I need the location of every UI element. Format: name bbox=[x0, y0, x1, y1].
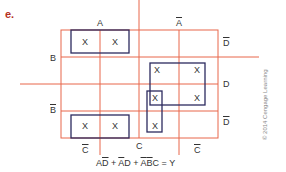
label-A-bar: A bbox=[176, 19, 182, 28]
cell-r1-c2: X bbox=[147, 66, 167, 75]
label-B-bar: B bbox=[50, 106, 56, 115]
cell-r1-c3: X bbox=[187, 66, 207, 75]
label-C: C bbox=[136, 142, 143, 151]
cell-r3-c1: X bbox=[105, 122, 125, 131]
label-A: A bbox=[97, 19, 103, 28]
copyright-notice: © 2014 Cengage Learning bbox=[262, 70, 268, 140]
eq-plus1: + bbox=[109, 158, 119, 168]
label-C-bar-right: C bbox=[194, 146, 201, 155]
karnaugh-map-grid bbox=[0, 0, 286, 172]
cell-r0-c1: X bbox=[105, 38, 125, 47]
cell-r3-c2: X bbox=[145, 122, 165, 131]
label-D: D bbox=[223, 80, 230, 89]
eq-plus2: + bbox=[131, 158, 141, 168]
boolean-equation: AD + AD + ABC = Y bbox=[96, 158, 175, 168]
cell-r3-c0: X bbox=[75, 122, 95, 131]
cell-r2-c3: X bbox=[187, 94, 207, 103]
label-C-bar-left: C bbox=[82, 146, 89, 155]
label-B: B bbox=[50, 54, 56, 63]
cell-r0-c0: X bbox=[75, 38, 95, 47]
label-D-bar-top: D bbox=[223, 39, 230, 48]
eq-result: = Y bbox=[159, 158, 175, 168]
cell-r2-c2: X bbox=[145, 94, 165, 103]
label-D-bar-bottom: D bbox=[223, 118, 230, 127]
